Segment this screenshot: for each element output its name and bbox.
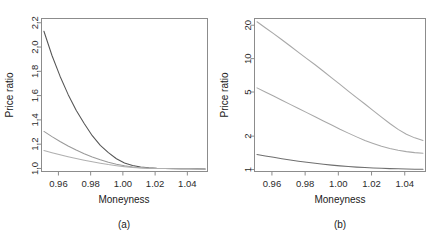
x-tick-label: 1.04	[395, 178, 414, 189]
x-axis-title-b: Moneyness	[314, 194, 365, 205]
data-curve	[44, 150, 205, 168]
x-tick-label: 1.00	[329, 178, 348, 189]
data-curve	[257, 22, 423, 141]
panel-caption-b: (b)	[334, 219, 346, 230]
curves-b	[257, 22, 423, 170]
y-tick-label: 2.0	[29, 40, 40, 53]
x-axis-title-a: Moneyness	[98, 194, 149, 205]
figure-two-panel-price-ratio: 1.01.21.41.61.82.02.2 0.960.981.001.021.…	[0, 0, 436, 245]
panel-caption-a: (a)	[118, 219, 130, 230]
x-tick-label: 0.96	[49, 178, 68, 189]
y-tick-label: 20	[242, 20, 253, 31]
panel-a: 1.01.21.41.61.82.02.2 0.960.981.001.021.…	[0, 0, 218, 245]
x-tick-label: 0.98	[81, 178, 100, 189]
y-axis-ticks-b: 1251020	[242, 20, 255, 172]
y-axis-ticks-a: 1.01.21.41.61.82.02.2	[29, 16, 42, 175]
panel-b: 1251020 0.960.981.001.021.04 Price ratio…	[218, 0, 436, 245]
x-tick-label: 1.02	[146, 178, 165, 189]
x-axis-ticks-b: 0.960.981.001.021.04	[263, 172, 414, 189]
data-curve	[44, 31, 205, 169]
y-tick-label: 10	[242, 53, 253, 64]
y-tick-label: 2.2	[29, 16, 40, 29]
plot-frame-b	[255, 19, 426, 172]
plot-frame-a	[42, 19, 208, 172]
x-tick-label: 1.02	[362, 178, 381, 189]
y-axis-title-b: Price ratio	[219, 72, 230, 117]
y-tick-label: 1.4	[29, 113, 40, 126]
x-axis-ticks-a: 0.960.981.001.021.04	[49, 172, 196, 189]
curves-a	[44, 31, 205, 169]
x-tick-label: 0.98	[296, 178, 315, 189]
y-tick-label: 1.2	[29, 138, 40, 151]
x-tick-label: 1.00	[114, 178, 133, 189]
x-tick-label: 0.96	[263, 178, 282, 189]
data-curve	[257, 155, 423, 170]
y-tick-label: 1.6	[29, 89, 40, 102]
panel-a-plot: 1.01.21.41.61.82.02.2 0.960.981.001.021.…	[0, 0, 218, 245]
y-axis-title-a: Price ratio	[4, 72, 15, 117]
y-tick-label: 5	[242, 89, 253, 94]
y-tick-label: 1.0	[29, 162, 40, 175]
x-tick-label: 1.04	[178, 178, 197, 189]
y-tick-label: 1.8	[29, 65, 40, 78]
panel-b-plot: 1251020 0.960.981.001.021.04 Price ratio…	[218, 0, 436, 245]
data-curve	[257, 88, 423, 153]
y-tick-label: 1	[242, 167, 253, 172]
y-tick-label: 2	[242, 133, 253, 138]
